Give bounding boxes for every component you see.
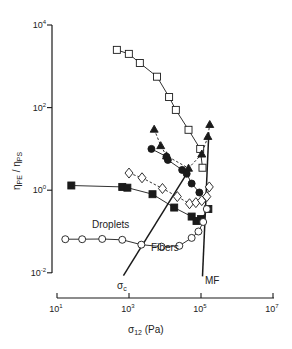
- data-point: [188, 234, 195, 241]
- data-point: [183, 170, 190, 177]
- data-point: [136, 60, 143, 67]
- data-point: [166, 94, 173, 101]
- data-point: [138, 173, 146, 183]
- droplets-label: Droplets: [92, 219, 129, 230]
- x-tick-label: 101: [49, 303, 63, 314]
- data-point: [138, 241, 145, 248]
- data-point: [149, 191, 156, 198]
- x-axis-title: σ12 (Pa): [128, 324, 164, 336]
- data-point: [125, 168, 133, 178]
- data-point: [206, 120, 214, 127]
- series-filled-triangles: [150, 120, 214, 171]
- series-open-squares: [113, 46, 206, 171]
- svg-text:ηPE / ηPS: ηPE / ηPS: [11, 152, 23, 190]
- data-point: [148, 145, 155, 152]
- mf-label: MF: [205, 275, 219, 286]
- data-point: [199, 164, 206, 171]
- data-point: [157, 142, 165, 149]
- x-tick-label: 107: [265, 303, 279, 314]
- data-point: [150, 125, 158, 132]
- data-point: [204, 132, 212, 139]
- series-line: [65, 209, 207, 247]
- data-point: [172, 106, 179, 113]
- data-point: [171, 204, 178, 211]
- x-tick-label: 103: [121, 303, 135, 314]
- series-filled-circles: [148, 145, 203, 196]
- y-axis-title: ηPE / ηPS: [11, 152, 23, 190]
- data-series: [62, 46, 214, 250]
- axes: 10410210010-2101103105107: [31, 19, 280, 314]
- sigma-c-label: σc: [117, 280, 127, 292]
- data-point: [154, 73, 161, 80]
- data-point: [124, 184, 131, 191]
- data-point: [119, 236, 126, 243]
- data-point: [185, 126, 192, 133]
- labels: Droplets Fibers σc MF σ12 (Pa) ηPE / ηPS: [11, 152, 219, 336]
- y-tick-label: 10-2: [31, 267, 47, 278]
- data-point: [125, 50, 132, 57]
- fibers-label: Fibers: [151, 242, 179, 253]
- y-tick-label: 102: [33, 102, 47, 113]
- data-point: [188, 180, 195, 187]
- y-tick-label: 104: [33, 19, 47, 30]
- data-point: [164, 156, 171, 163]
- reference-line-c: [123, 173, 187, 276]
- data-point: [195, 228, 202, 235]
- data-point: [62, 236, 69, 243]
- data-point: [200, 218, 207, 225]
- data-point: [203, 206, 210, 213]
- data-point: [99, 235, 106, 242]
- series-open-circles: [62, 206, 211, 251]
- x-tick-label: 105: [193, 303, 207, 314]
- data-point: [79, 236, 86, 243]
- series-line: [117, 50, 203, 168]
- data-point: [158, 183, 166, 193]
- data-point: [113, 46, 120, 53]
- chart-canvas: 10410210010-2101103105107 Droplets Fiber…: [0, 0, 292, 349]
- data-point: [68, 182, 75, 189]
- y-tick-label: 100: [33, 184, 47, 195]
